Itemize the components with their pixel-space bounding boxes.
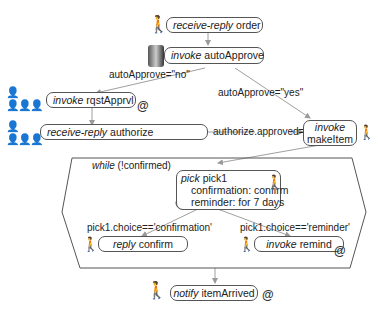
person-icon: 🚶 [238, 236, 255, 252]
reply-confirm-node[interactable]: replyconfirm [98, 236, 188, 252]
edge-label-autoapprove-no: autoApprove="no" [109, 69, 190, 80]
while-loop-label: while (!confirmed) [92, 160, 171, 171]
async-marker: @ [334, 244, 346, 258]
edge-label-choice-confirmation: pick1.choice=='confirmation' [87, 222, 212, 233]
edge-label-autoapprove-yes: autoApprove="yes" [218, 87, 303, 98]
person-icon: 🚶 [266, 174, 283, 190]
async-marker: @ [137, 99, 149, 113]
edge-label-choice-reminder: pick1.choice=='reminder' [240, 222, 350, 233]
person-icon: 🚶 [82, 236, 99, 252]
person-with-camera-icon: 🚶 [146, 280, 167, 301]
invoke-remind-node[interactable]: invokeremind [254, 236, 344, 252]
receive-reply-order-node[interactable]: receive-replyorder [166, 17, 263, 33]
invoke-makeitem-node[interactable]: invokemakeItem [303, 120, 357, 146]
timer-icon [176, 197, 188, 209]
server-icon [148, 45, 164, 67]
invoke-rqstapprvl-node[interactable]: invokerqstApprvl [46, 92, 136, 108]
group-icon: 👤👤👤👤 [6, 86, 42, 112]
receive-reply-authorize-node[interactable]: receive-replyauthorize [40, 124, 208, 140]
async-marker: @ [262, 288, 274, 302]
invoke-autoapprove-node[interactable]: invokeautoApprove [164, 47, 264, 64]
worker-at-desk-icon: 🚶 [358, 124, 375, 140]
group-icon: 👤👤👤👤 [6, 120, 42, 146]
notify-itemarrived-node[interactable]: notifyitemArrived [170, 285, 258, 301]
